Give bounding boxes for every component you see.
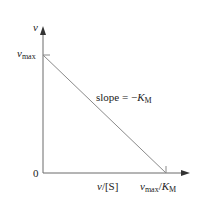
y-axis-label: v (33, 22, 38, 33)
x-axis-arrow-icon (181, 170, 190, 176)
x-intercept-label: vmax/KM (140, 181, 176, 194)
x-axis-label: v/[S] (97, 181, 118, 192)
x-intercept-vsub: max (145, 185, 159, 194)
x-intercept-k: K (162, 180, 169, 192)
slope-annotation: slope = −KM (96, 92, 152, 105)
x-axis-rest: /[S] (102, 180, 119, 192)
data-line (43, 55, 166, 173)
y-intercept-label: vmax (17, 48, 36, 61)
x-intercept-ksub: M (169, 185, 176, 194)
origin-label: 0 (33, 168, 39, 179)
slope-sub: M (144, 96, 151, 105)
y-axis-arrow-icon (40, 26, 46, 35)
slope-text: slope = − (96, 91, 137, 103)
y-intercept-sub: max (22, 52, 36, 61)
